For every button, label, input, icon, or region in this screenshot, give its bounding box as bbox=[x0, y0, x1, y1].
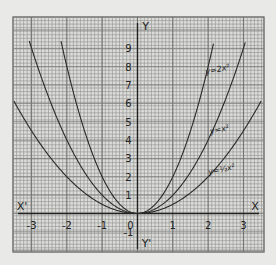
y-tick-label: 2 bbox=[125, 172, 131, 183]
x-tick-label: -3 bbox=[27, 220, 37, 231]
x-tick-label: 2 bbox=[205, 220, 211, 231]
y-axis-label: Y bbox=[141, 20, 149, 33]
x-tick-label: 1 bbox=[170, 220, 176, 231]
y-tick-label: 5 bbox=[125, 117, 131, 128]
parabola-graph: -3-2-10123-1123456789XX'YY'y=2x²y=x²y=½x… bbox=[0, 0, 276, 265]
y-tick-label: 8 bbox=[125, 62, 131, 73]
y-tick-label: 1 bbox=[125, 190, 131, 201]
x-tick-label: -1 bbox=[97, 220, 107, 231]
y-tick-label: 9 bbox=[125, 43, 131, 54]
y-tick-label: -1 bbox=[124, 227, 134, 238]
x-axis-label: X bbox=[251, 200, 259, 213]
y-tick-label: 6 bbox=[125, 98, 131, 109]
graph-paper-grid bbox=[13, 17, 264, 252]
x-tick-label: 3 bbox=[240, 220, 246, 231]
y-neg-axis-label: Y' bbox=[141, 237, 152, 250]
y-tick-label: 7 bbox=[125, 80, 131, 91]
x-tick-label: -2 bbox=[62, 220, 72, 231]
y-tick-label: 4 bbox=[125, 135, 131, 146]
x-neg-axis-label: X' bbox=[17, 200, 28, 213]
y-tick-label: 3 bbox=[125, 153, 131, 164]
